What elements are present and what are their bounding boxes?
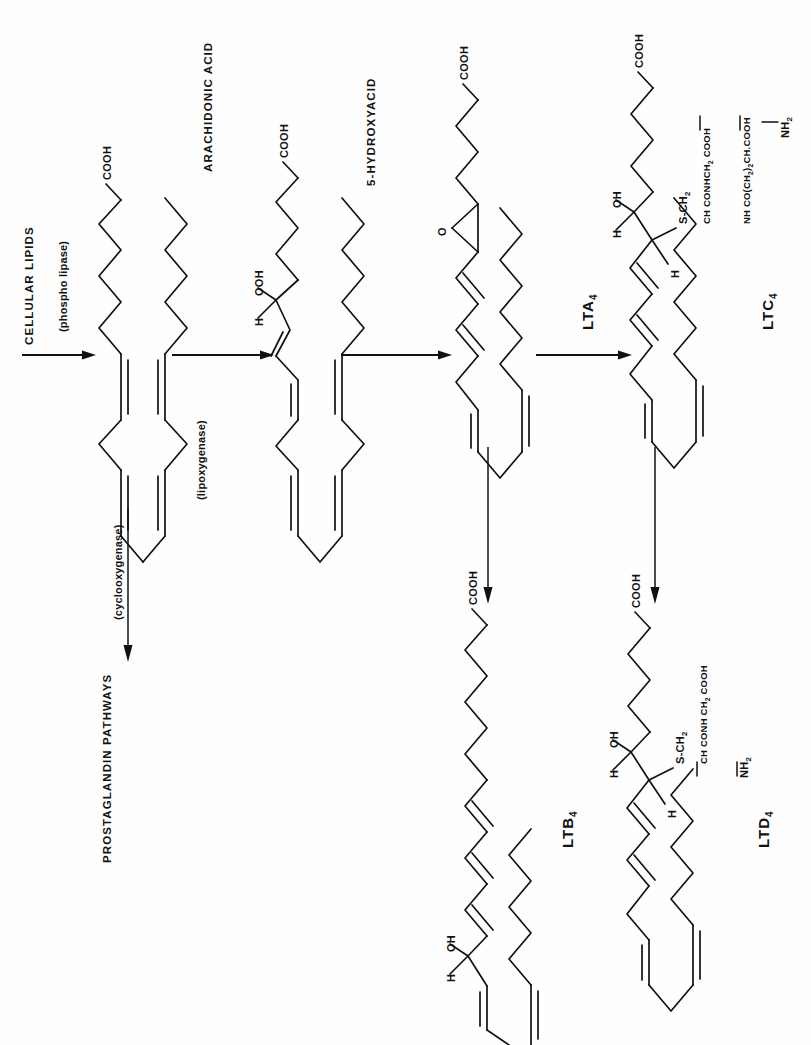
label-ltd4-text: LTD xyxy=(755,817,772,848)
label-cellular-lipids: CELLULAR LIPIDS xyxy=(24,226,36,345)
group-nh2-ltc4-subscript: 2 xyxy=(785,117,794,122)
group-s-ch2-ltd4: S-CH2 xyxy=(675,731,689,764)
arrow-cyclooxygenase-to-prostaglandins xyxy=(124,508,133,662)
group-h-ltd4-thioether: H xyxy=(667,810,678,818)
group-ltd4-glycine-chain: CH CONH CH2 COOH xyxy=(699,665,712,764)
group-h-ltb4: H xyxy=(446,974,457,982)
lta4-structure xyxy=(452,84,529,478)
group-oh-ltb4: OH xyxy=(446,935,457,952)
group-ltc4-chain1-b: COOH xyxy=(701,128,712,160)
group-ltc4-chain2-c: CH.COOH xyxy=(741,117,752,163)
group-h-ltc4-carbinol: H xyxy=(612,230,623,238)
group-h-hydroperoxy: H xyxy=(254,318,265,326)
hydroperoxy-acid-structure xyxy=(258,162,364,562)
label-lta4-text: LTA xyxy=(579,300,596,330)
group-ooh-hydroperoxy: OOH xyxy=(254,270,265,296)
group-oh-ltd4: OH xyxy=(609,731,620,748)
group-s-ch2-ltc4-subscript: 2 xyxy=(683,191,692,196)
label-prostaglandin-pathways: PROSTAGLANDIN PATHWAYS xyxy=(102,674,114,863)
group-s-ch2-ltc4-text: S-CH xyxy=(677,196,689,224)
group-ltc4-glutamyl-chain: NH CO(CH2)2CH.COOH xyxy=(742,117,755,224)
group-ltc4-chain2-subscript-1: 2 xyxy=(747,171,754,175)
group-ltc4-chain1-a: CH CONHCH xyxy=(701,164,712,224)
group-s-ch2-ltc4: S-CH2 xyxy=(678,191,692,224)
label-ltd4: LTD4 xyxy=(756,810,775,848)
group-nh2-ltd4-text: NH xyxy=(738,762,750,779)
group-ltc4-glycine-chain: CH CONHCH2 COOH xyxy=(702,128,715,224)
label-5-hydroxyacid: 5-HYDROXYACID xyxy=(366,78,378,186)
label-ltb4-text: LTB xyxy=(559,817,576,848)
group-ltc4-chain1-subscript: 2 xyxy=(707,160,714,164)
group-nh2-ltd4-subscript: 2 xyxy=(744,757,753,762)
ltb4-structure xyxy=(450,609,538,1045)
group-ltd4-chain-b: COOH xyxy=(698,665,709,697)
arrow-arachidonic-to-hydroperoxy xyxy=(172,351,274,360)
group-cooh-arachidonic: COOH xyxy=(102,146,113,180)
group-cooh-ltb4: COOH xyxy=(468,571,479,605)
group-s-ch2-ltd4-text: S-CH xyxy=(674,736,686,764)
figure-canvas: CELLULAR LIPIDS (phospho lipase) COOH AR… xyxy=(0,0,811,1045)
group-cooh-hydroperoxy: COOH xyxy=(279,124,290,158)
group-nh2-ltc4-text: NH xyxy=(779,122,791,139)
label-ltc4: LTC4 xyxy=(760,292,779,330)
label-ltc4-subscript: 4 xyxy=(768,292,779,299)
arrow-lta4-to-ltb4 xyxy=(484,447,493,604)
label-arachidonic-acid: ARACHIDONIC ACID xyxy=(203,42,215,172)
arachidonic-acid-structure xyxy=(99,184,187,562)
label-lta4: LTA4 xyxy=(580,294,599,331)
arrow-lipids-to-arachidonic xyxy=(22,351,96,360)
group-s-ch2-ltd4-subscript: 2 xyxy=(680,731,689,736)
group-oh-ltc4: OH xyxy=(612,191,623,208)
label-lipoxygenase: (lipoxygenase) xyxy=(196,420,207,500)
label-ltb4-subscript: 4 xyxy=(568,810,579,817)
group-ltc4-chain2-a: NH CO(CH xyxy=(741,175,752,224)
label-lta4-subscript: 4 xyxy=(588,294,599,301)
group-ltd4-chain-subscript: 2 xyxy=(704,697,711,701)
group-nh2-ltd4: NH2 xyxy=(739,757,753,778)
arrow-ltc4-to-ltd4 xyxy=(651,447,660,604)
arrow-lta4-to-ltc4 xyxy=(536,351,632,360)
group-cooh-ltd4: COOH xyxy=(631,574,642,608)
group-cooh-ltc4: COOH xyxy=(634,34,645,68)
group-ltd4-chain-a: CH CONH CH xyxy=(698,701,709,764)
group-ltc4-chain2-subscript-2: 2 xyxy=(747,164,754,168)
label-cyclooxygenase: (cyclooxygenase) xyxy=(113,524,124,620)
group-h-ltc4-thioether: H xyxy=(670,270,681,278)
group-nh2-ltc4: NH2 xyxy=(780,117,794,138)
label-ltd4-subscript: 4 xyxy=(764,810,775,817)
group-cooh-lta4: COOH xyxy=(459,46,470,80)
label-phospholipase: (phospho lipase) xyxy=(58,241,69,332)
pathway-vector-layer xyxy=(0,0,811,1045)
label-ltb4: LTB4 xyxy=(560,810,579,848)
group-epoxide-o-lta4: O xyxy=(437,227,448,236)
group-h-ltd4-carbinol: H xyxy=(609,770,620,778)
label-ltc4-text: LTC xyxy=(759,299,776,330)
group-ltc4-chain2-b: ) xyxy=(741,168,752,171)
arrow-hydroperoxy-to-lta4 xyxy=(341,351,452,360)
